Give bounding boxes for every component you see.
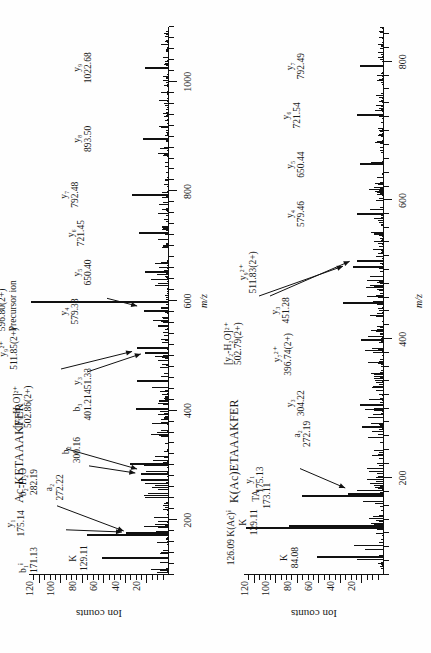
x-tick-minor — [169, 508, 174, 509]
noise-peak — [380, 283, 384, 284]
ann-y7-792-ion: y₇ — [285, 53, 296, 79]
noise-peak — [161, 430, 169, 431]
labeled-peak — [348, 493, 384, 495]
noise-peak — [158, 239, 169, 240]
noise-peak — [380, 506, 384, 507]
y-tick-major — [297, 575, 298, 583]
noise-peak — [375, 110, 384, 111]
labeled-peak — [143, 138, 169, 140]
ann-y8-893: y₈893.50 — [72, 126, 93, 152]
noise-peak — [382, 84, 384, 85]
noise-peak — [381, 370, 384, 371]
ann-a2-272: a₂272.19 — [292, 421, 313, 447]
noise-peak — [381, 93, 384, 94]
spectrum-panel-a: Ac-KETAAAKFER m/z Ion counts 20040060080… — [0, 0, 215, 653]
noise-peak — [146, 471, 169, 472]
y-tick-minor — [351, 575, 352, 580]
noise-peak — [163, 274, 169, 275]
labeled-peak — [289, 525, 384, 527]
noise-peak — [382, 321, 384, 322]
x-tick-minor — [169, 530, 174, 531]
y-tick-minor — [286, 575, 287, 580]
noise-peak — [166, 78, 169, 79]
x-tick-minor — [169, 59, 174, 60]
noise-peak — [152, 387, 169, 388]
ann-y7-792: y₇792.49 — [285, 53, 306, 79]
noise-peak — [158, 360, 169, 361]
noise-peak — [374, 218, 384, 219]
x-tick-minor — [169, 92, 174, 93]
x-tick-minor — [169, 355, 174, 356]
y-tick-minor — [335, 575, 336, 580]
noise-peak — [162, 357, 169, 358]
x-tick-minor — [169, 245, 174, 246]
noise-peak — [370, 276, 384, 277]
noise-peak — [374, 233, 384, 234]
x-tick-minor — [384, 172, 389, 173]
noise-peak — [164, 373, 169, 374]
noise-peak — [381, 152, 384, 153]
x-tick-minor — [384, 491, 389, 492]
x-tick-label: 600 — [182, 294, 193, 309]
noise-peak — [376, 481, 384, 482]
labeled-peak — [246, 527, 384, 529]
y-tick-minor — [367, 575, 368, 580]
ann-b2-h2o-282: b₂-H₂O282.19 — [18, 468, 39, 496]
noise-peak — [379, 198, 384, 199]
y-tick-label: 20 — [346, 581, 357, 605]
noise-peak — [376, 105, 384, 106]
x-tick-minor — [384, 47, 389, 48]
noise-peak — [382, 111, 384, 112]
x-tick-minor — [169, 26, 174, 27]
noise-peak — [166, 297, 169, 298]
ann-y2-h2o-502: [y₂-H₂O]²⁺502.79(2+) — [223, 322, 244, 365]
y-tick-major — [103, 575, 104, 583]
noise-peak — [160, 411, 169, 412]
x-tick-minor — [169, 147, 174, 148]
noise-peak — [167, 571, 169, 572]
noise-peak — [166, 140, 169, 141]
noise-peak — [165, 135, 169, 136]
y-axis-label-b: Ion counts — [291, 608, 337, 620]
noise-peak — [382, 108, 384, 109]
x-tick-minor — [384, 352, 389, 353]
noise-peak — [165, 162, 169, 163]
noise-peak — [378, 220, 384, 221]
y-tick-minor — [33, 575, 34, 580]
x-tick-minor — [169, 377, 174, 378]
x-tick-minor — [169, 37, 174, 38]
ann-y6-721-mz: 721.54 — [292, 102, 303, 128]
noise-peak — [373, 414, 384, 415]
noise-peak — [377, 194, 384, 195]
x-tick-label: 1000 — [182, 72, 193, 92]
noise-peak — [380, 48, 384, 49]
noise-peak — [374, 235, 384, 236]
ann-y3-304-mz: 304.22 — [296, 390, 307, 416]
noise-peak — [380, 190, 384, 191]
y-tick-label: 60 — [303, 581, 314, 605]
noise-peak — [379, 31, 384, 32]
noise-peak — [167, 467, 169, 468]
noise-peak — [167, 476, 169, 477]
noise-peak — [382, 28, 384, 29]
ann-y5-650-ion: y₅ — [72, 259, 83, 285]
noise-peak — [382, 355, 384, 356]
x-tick-minor — [169, 136, 174, 137]
ann-b3-401-mz: 401.21 — [83, 394, 94, 420]
noise-peak — [153, 460, 169, 461]
noise-peak — [166, 502, 169, 503]
noise-peak — [167, 150, 169, 151]
x-tick-minor — [169, 541, 174, 542]
noise-peak — [382, 133, 384, 134]
noise-peak — [159, 126, 169, 127]
noise-peak — [379, 452, 384, 453]
x-tick-minor — [169, 289, 174, 290]
noise-peak — [379, 268, 384, 269]
x-tick-label: 800 — [397, 54, 408, 69]
noise-peak — [377, 192, 384, 193]
noise-peak — [167, 101, 169, 102]
x-tick-minor — [169, 70, 174, 71]
noise-peak — [376, 390, 384, 391]
ann-k-129-ion: K — [238, 509, 249, 535]
y-tick-label: 20 — [131, 581, 142, 605]
